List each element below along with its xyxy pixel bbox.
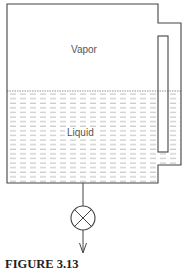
liquid-label: Liquid <box>67 127 94 138</box>
vapor-label: Vapor <box>71 44 98 55</box>
liquid-region <box>7 36 182 184</box>
figure-caption: FIGURE 3.13 <box>5 257 79 271</box>
tank-diagram: Vapor Liquid FIGURE 3.13 <box>0 0 191 274</box>
valve-icon <box>71 206 95 230</box>
